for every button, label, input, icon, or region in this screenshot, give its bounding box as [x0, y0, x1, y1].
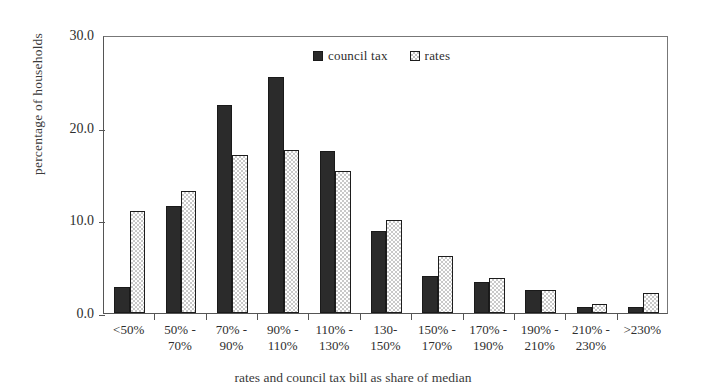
- chart-legend: council taxrates: [313, 48, 450, 64]
- bar: [335, 171, 350, 313]
- y-axis-tick-label: 10.0: [48, 213, 94, 229]
- x-axis-tick-mark: [565, 314, 566, 320]
- checkered-square-icon: [410, 51, 420, 61]
- bar: [232, 155, 247, 313]
- y-axis-tick-mark: [99, 222, 105, 223]
- x-axis-category-label-line: 170% -: [463, 322, 514, 338]
- x-axis-tick-mark: [514, 314, 515, 320]
- legend-entry: rates: [410, 48, 451, 64]
- x-axis-category-label-line: 150%: [360, 338, 411, 354]
- bar-group: [464, 37, 515, 313]
- bar: [320, 151, 335, 313]
- bar: [371, 231, 386, 313]
- bar-group: [258, 37, 309, 313]
- bars-layer: [104, 37, 667, 313]
- x-axis-category-label-line: 190%: [463, 338, 514, 354]
- legend-label: council tax: [328, 48, 388, 64]
- x-axis-category-label: 110% -130%: [308, 322, 359, 354]
- legend-entry: council tax: [313, 48, 388, 64]
- x-axis-category-label: 210% -230%: [565, 322, 616, 354]
- x-axis-category-label-line: >230%: [617, 322, 668, 338]
- x-axis-category-label: 170% -190%: [463, 322, 514, 354]
- x-axis-category-label-line: 70% -: [206, 322, 257, 338]
- bar: [130, 211, 145, 313]
- x-axis-tick-mark: [411, 314, 412, 320]
- x-axis-category-label-line: 170%: [411, 338, 462, 354]
- x-axis-tick-mark: [617, 314, 618, 320]
- bar: [525, 290, 540, 313]
- x-axis-category-labels: <50%50% -70%70% -90%90% -110%110% -130%1…: [103, 322, 668, 366]
- x-axis-tick-mark: [206, 314, 207, 320]
- x-axis-category-label-line: 210% -: [565, 322, 616, 338]
- y-axis-tick-labels: 0.010.020.030.0: [36, 0, 94, 392]
- legend-label: rates: [425, 48, 451, 64]
- x-axis-tick-mark: [308, 314, 309, 320]
- bar: [422, 276, 437, 313]
- bar: [541, 290, 556, 313]
- x-axis-category-label-line: 190% -: [514, 322, 565, 338]
- x-axis-title: rates and council tax bill as share of m…: [0, 370, 706, 386]
- x-axis-category-label: 70% -90%: [206, 322, 257, 354]
- bar: [592, 304, 607, 313]
- bar: [489, 278, 504, 313]
- bar-group: [104, 37, 155, 313]
- bar-chart-figure: percentage of households 0.010.020.030.0…: [0, 0, 706, 392]
- y-axis-tick-label: 20.0: [48, 121, 94, 137]
- dark-square-icon: [313, 51, 323, 61]
- bar-group: [207, 37, 258, 313]
- x-axis-category-label-line: 90%: [206, 338, 257, 354]
- x-axis-category-label-line: <50%: [103, 322, 154, 338]
- bar: [114, 287, 129, 313]
- x-axis-category-label: 150% -170%: [411, 322, 462, 354]
- x-axis-tick-mark: [154, 314, 155, 320]
- y-axis-tick-label: 0.0: [48, 306, 94, 322]
- x-axis-category-label-line: 70%: [154, 338, 205, 354]
- x-axis-tick-mark: [463, 314, 464, 320]
- x-axis-category-label: 90% -110%: [257, 322, 308, 354]
- bar-group: [361, 37, 412, 313]
- x-axis-category-label-line: 150% -: [411, 322, 462, 338]
- bar-group: [515, 37, 566, 313]
- bar: [628, 307, 643, 313]
- bar-group: [618, 37, 669, 313]
- bar: [386, 220, 401, 313]
- bar: [268, 77, 283, 313]
- x-axis-category-label-line: 90% -: [257, 322, 308, 338]
- y-axis-tick-label: 30.0: [48, 28, 94, 44]
- bar: [474, 282, 489, 314]
- x-axis-category-label-line: 110% -: [308, 322, 359, 338]
- bar: [438, 256, 453, 313]
- x-axis-category-label: 190% -210%: [514, 322, 565, 354]
- bar: [181, 191, 196, 313]
- x-axis-category-label: >230%: [617, 322, 668, 338]
- x-axis-category-label-line: 130%: [308, 338, 359, 354]
- bar: [284, 150, 299, 313]
- bar: [643, 293, 658, 313]
- x-axis-category-label-line: 130-: [360, 322, 411, 338]
- x-axis-category-label: <50%: [103, 322, 154, 338]
- x-axis-category-label: 130-150%: [360, 322, 411, 354]
- x-axis-tick-marks: [103, 314, 668, 321]
- plot-area: [103, 36, 668, 314]
- y-axis-tick-mark: [99, 130, 105, 131]
- x-axis-category-label-line: 230%: [565, 338, 616, 354]
- x-axis-category-label-line: 210%: [514, 338, 565, 354]
- bar: [166, 206, 181, 313]
- bar: [217, 105, 232, 314]
- bar: [577, 307, 592, 313]
- bar-group: [309, 37, 360, 313]
- x-axis-tick-mark: [360, 314, 361, 320]
- bar-group: [155, 37, 206, 313]
- x-axis-tick-mark: [257, 314, 258, 320]
- x-axis-category-label-line: 110%: [257, 338, 308, 354]
- bar-group: [566, 37, 617, 313]
- x-axis-category-label-line: 50% -: [154, 322, 205, 338]
- x-axis-category-label: 50% -70%: [154, 322, 205, 354]
- bar-group: [412, 37, 463, 313]
